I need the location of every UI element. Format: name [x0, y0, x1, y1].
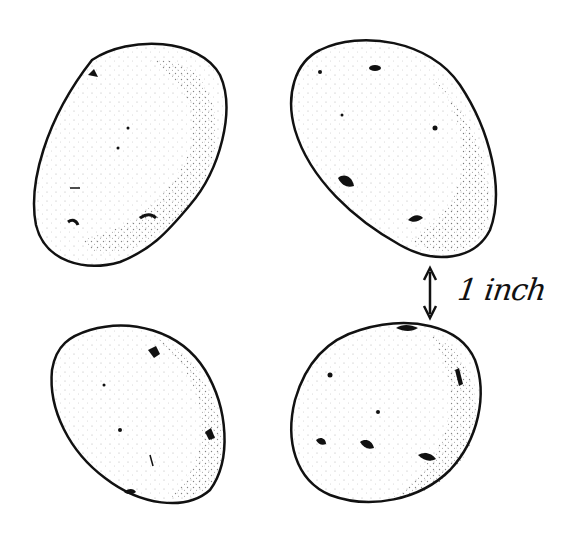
double-arrow-icon — [424, 268, 436, 318]
potato-bottom-right — [291, 323, 480, 502]
potato-bottom-left — [52, 326, 225, 503]
potato-top-left — [34, 44, 226, 266]
scale-label: 1 inch — [456, 272, 549, 307]
potato-illustration — [0, 0, 587, 534]
potato-top-right — [291, 40, 496, 257]
